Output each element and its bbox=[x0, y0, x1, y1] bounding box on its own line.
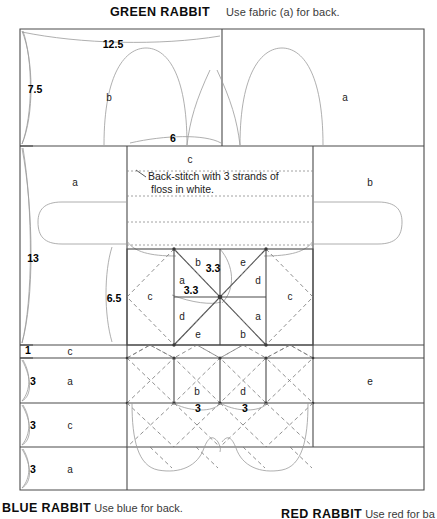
label-star-e-bottom: e bbox=[195, 329, 201, 340]
annotation-line-2: floss in white. bbox=[151, 183, 214, 195]
dim-strip-cell-1: 3 bbox=[195, 402, 201, 414]
label-mid-right-body: b bbox=[367, 177, 373, 188]
label-star-b-top: b bbox=[195, 257, 201, 268]
footer-blue-rabbit-name: BLUE RABBIT bbox=[2, 501, 91, 515]
label-star-e-top: e bbox=[240, 257, 246, 268]
label-neck-center: c bbox=[188, 154, 193, 165]
label-top-right-body: a bbox=[342, 92, 348, 103]
footer-red-rabbit-name: RED RABBIT bbox=[281, 507, 362, 519]
label-mid-left-body: a bbox=[72, 177, 78, 188]
dimension-labels: 12.5 7.5 6 13 6.5 3.3 3.3 1 3 3 3 3 3 bbox=[25, 38, 248, 475]
ear-outlines-top bbox=[22, 31, 323, 145]
footer-blue-rabbit-note: Use blue for back. bbox=[94, 502, 183, 514]
footer-red-rabbit-note: Use red for ba bbox=[365, 508, 435, 519]
dim-left-top: 7.5 bbox=[28, 83, 43, 95]
dim-left-mid: 13 bbox=[27, 252, 39, 264]
bottom-diamond-strip bbox=[126, 345, 315, 405]
dim-block-height: 6.5 bbox=[107, 292, 122, 304]
lower-dashed-lattice bbox=[127, 403, 313, 468]
dim-neck-width: 6 bbox=[170, 132, 176, 144]
dim-left-row-3: 3 bbox=[30, 419, 36, 431]
footer-red-rabbit: RED RABBIT Use red for ba bbox=[281, 507, 435, 519]
label-star-a-upper: a bbox=[179, 275, 185, 286]
pattern-diagram: .ln { stroke: #4a4a4a; stroke-width: 1.1… bbox=[0, 0, 437, 519]
label-star-a-lower: a bbox=[255, 311, 261, 322]
label-star-right-c: c bbox=[288, 291, 293, 302]
label-row-2-right: e bbox=[367, 376, 373, 387]
label-star-d-upper: d bbox=[255, 275, 261, 286]
dim-strip-cell-2: 3 bbox=[242, 402, 248, 414]
label-star-b-bottom: b bbox=[240, 329, 246, 340]
pattern-sheet: GREEN RABBIT Use fabric (a) for back. .l… bbox=[0, 0, 437, 519]
label-row-2: a bbox=[67, 376, 73, 387]
label-row-4: a bbox=[67, 464, 73, 475]
label-star-d-lower: d bbox=[179, 311, 185, 322]
annotation-line-1: Back-stitch with 3 strands of bbox=[148, 170, 279, 182]
dim-star-diag-1: 3.3 bbox=[206, 262, 221, 274]
footer-blue-rabbit: BLUE RABBIT Use blue for back. bbox=[2, 501, 183, 515]
dim-left-row-1: 1 bbox=[25, 344, 31, 356]
label-strip-b: b bbox=[194, 386, 200, 397]
label-row-3: c bbox=[68, 420, 73, 431]
dim-left-row-2: 3 bbox=[30, 375, 36, 387]
label-row-1: c bbox=[68, 346, 73, 357]
dim-left-row-4: 3 bbox=[30, 463, 36, 475]
dim-top-width: 12.5 bbox=[103, 38, 124, 50]
foot-outlines-bottom bbox=[22, 360, 308, 488]
label-star-left-c: c bbox=[148, 291, 153, 302]
label-strip-d: d bbox=[240, 386, 246, 397]
dim-star-diag-2: 3.3 bbox=[184, 284, 199, 296]
backstitch-annotation: Back-stitch with 3 strands of floss in w… bbox=[148, 170, 279, 195]
label-top-left-body: b bbox=[106, 92, 112, 103]
